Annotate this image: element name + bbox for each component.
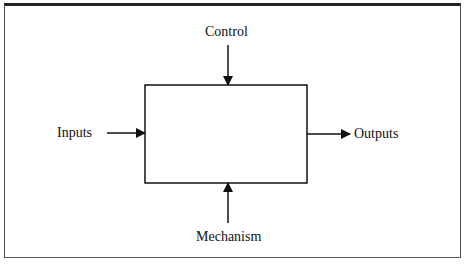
mechanism-label: Mechanism	[196, 230, 261, 244]
control-label: Control	[205, 25, 248, 39]
outputs-label: Outputs	[354, 127, 398, 141]
inputs-label: Inputs	[57, 126, 92, 140]
function-box	[145, 85, 307, 183]
